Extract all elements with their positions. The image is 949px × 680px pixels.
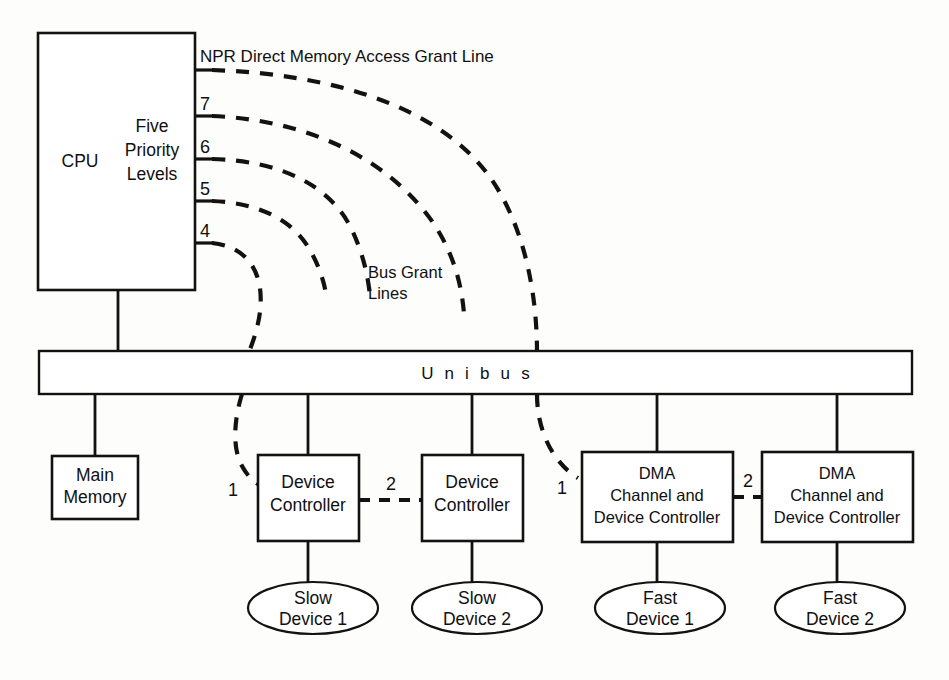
cpu-label: CPU bbox=[62, 151, 99, 171]
five-priority-levels-line1: Five bbox=[135, 116, 168, 136]
main-memory-line2: Memory bbox=[63, 487, 126, 507]
dma-1-line2: Channel and bbox=[610, 486, 704, 504]
main-memory-line1: Main bbox=[76, 465, 114, 485]
diagram-canvas: CPU Five Priority Levels 7 6 5 4 NPR Dir… bbox=[0, 0, 949, 680]
unibus-label: U n i b u s bbox=[421, 364, 533, 383]
device-controller-2-line2: Controller bbox=[434, 495, 510, 515]
npr-grant-line-label: NPR Direct Memory Access Grant Line bbox=[200, 47, 494, 66]
bus-grant-line-7 bbox=[212, 116, 464, 314]
fast-device-1-line1: Fast bbox=[643, 588, 677, 608]
dma-1-line1: DMA bbox=[639, 464, 676, 482]
npr-chain-number-in-dma1: 1 bbox=[557, 478, 567, 498]
npr-chain-number-dma1-dma2: 2 bbox=[743, 471, 753, 491]
priority-label-6: 6 bbox=[200, 137, 210, 157]
device-controller-1-line2: Controller bbox=[270, 495, 346, 515]
bg-chain-number-dc1-dc2: 2 bbox=[386, 474, 396, 494]
fast-device-2-line2: Device 2 bbox=[806, 609, 874, 629]
fast-device-1-line2: Device 1 bbox=[626, 609, 694, 629]
bus-grant-line-4-upper bbox=[212, 243, 261, 352]
dma-2-line3: Device Controller bbox=[774, 508, 901, 526]
bus-grant-lines-label-line1: Bus Grant bbox=[368, 263, 443, 281]
bg-chain-number-in-dc1: 1 bbox=[228, 480, 238, 500]
dma-2-line1: DMA bbox=[819, 464, 856, 482]
npr-grant-line-lower bbox=[537, 394, 578, 478]
dma-2-line2: Channel and bbox=[790, 486, 884, 504]
priority-label-5: 5 bbox=[200, 179, 210, 199]
slow-device-1-line1: Slow bbox=[294, 588, 332, 608]
priority-label-7: 7 bbox=[200, 94, 210, 114]
five-priority-levels-line3: Levels bbox=[127, 164, 178, 184]
unibus-priority-diagram: CPU Five Priority Levels 7 6 5 4 NPR Dir… bbox=[0, 0, 949, 680]
slow-device-2-line1: Slow bbox=[458, 588, 496, 608]
dma-1-line3: Device Controller bbox=[594, 508, 721, 526]
slow-device-1-line2: Device 1 bbox=[279, 609, 347, 629]
priority-label-4: 4 bbox=[200, 221, 210, 241]
device-controller-1-line1: Device bbox=[281, 472, 335, 492]
bus-grant-lines-label-line2: Lines bbox=[368, 284, 407, 302]
device-controller-2-line1: Device bbox=[445, 472, 499, 492]
fast-device-2-line1: Fast bbox=[823, 588, 857, 608]
bus-grant-line-5 bbox=[212, 201, 326, 294]
slow-device-2-line2: Device 2 bbox=[443, 609, 511, 629]
five-priority-levels-line2: Priority bbox=[125, 140, 180, 160]
